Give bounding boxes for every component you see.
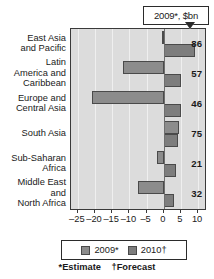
plot-area: 865746752132 [70,28,206,210]
category-label: South Asia [0,128,66,138]
value-label: 46 [191,98,202,109]
legend-item: 2010† [128,245,167,255]
value-label: 75 [191,128,202,139]
gridline [78,29,79,209]
legend-swatch [81,246,90,255]
axis-tick [163,210,164,213]
category-label-line: Latin [0,57,66,67]
category-label-line: and [0,188,66,198]
gridline [112,29,113,209]
bar [164,164,176,177]
bar [164,121,179,134]
axis-tick [146,210,147,213]
category-label: LatinAmerica andCaribbean [0,57,66,88]
bar [92,91,164,104]
category-label-line: Caribbean [0,78,66,88]
callout-pointer [185,22,195,29]
x-axis: –25–20–15–10–50510 [70,210,206,228]
value-label: 21 [191,158,202,169]
axis-tick [180,210,181,213]
category-label-line: North Africa [0,198,66,208]
category-label-line: and Pacific [0,43,66,53]
value-label: 57 [191,68,202,79]
bar [138,181,164,194]
zero-axis-line [164,29,165,209]
category-label-line: Central Asia [0,103,66,113]
category-label: Middle EastandNorth Africa [0,177,66,208]
category-label-line: Europe and [0,93,66,103]
category-label-line: Africa [0,163,66,173]
bar [164,134,178,147]
gridline [198,29,199,209]
callout-box: 2009*, $bn [143,6,209,25]
category-label-line: Middle East [0,177,66,187]
category-label-line: Sub-Saharan [0,153,66,163]
axis-tick [197,210,198,213]
axis-tick [111,210,112,213]
bar [164,74,181,87]
legend: 2009*2010† [61,240,187,260]
legend-label: 2010† [141,245,167,255]
value-label: 86 [191,38,202,49]
bar [164,104,181,117]
gridline [95,29,96,209]
axis-tick [94,210,95,213]
category-label: Europe andCentral Asia [0,93,66,114]
chart-area: East Asiaand PacificLatinAmerica andCari… [0,28,214,213]
axis-tick-label: 10 [186,214,208,224]
category-label-line: America and [0,68,66,78]
category-label-line: South Asia [0,128,66,138]
axis-tick [128,210,129,213]
category-label-column: East Asiaand PacificLatinAmerica andCari… [0,28,69,213]
axis-tick [77,210,78,213]
category-label: Sub-SaharanAfrica [0,153,66,174]
bar [164,44,195,57]
callout-label: 2009*, $bn [154,10,198,21]
category-label-line: East Asia [0,33,66,43]
legend-item: 2009* [81,245,118,255]
bar [123,61,164,74]
footnote-forecast: †Forecast [112,262,156,272]
category-label: East Asiaand Pacific [0,33,66,54]
legend-label: 2009* [94,245,118,255]
bar [164,194,174,207]
footnote: *Estimate †Forecast [0,262,214,272]
gridline [129,29,130,209]
bar [157,151,164,164]
footnote-estimate: *Estimate [59,262,101,272]
legend-swatch [128,246,137,255]
value-label: 32 [191,188,202,199]
